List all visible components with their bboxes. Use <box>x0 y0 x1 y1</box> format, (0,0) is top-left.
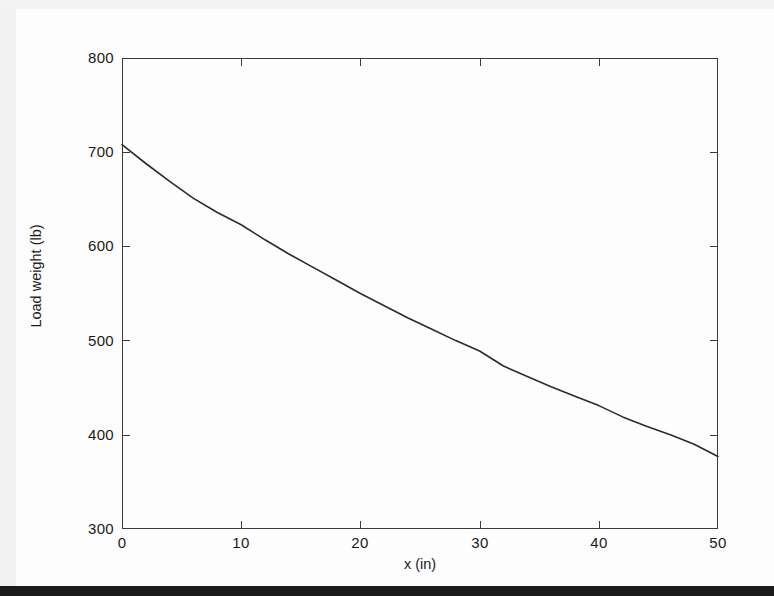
ytick-mark-700 <box>122 152 130 153</box>
xtick-label-50: 50 <box>688 534 748 551</box>
scan-edge-band <box>0 586 774 596</box>
ytick-mark-600 <box>122 246 130 247</box>
xtick-mark-top-20 <box>360 58 361 66</box>
xtick-mark-10 <box>241 521 242 529</box>
ytick-600: 600 <box>52 237 114 255</box>
xtick-mark-top-10 <box>241 58 242 66</box>
xtick-label-20: 20 <box>330 534 390 551</box>
ytick-label-800: 800 <box>54 49 114 66</box>
xtick-mark-40 <box>599 521 600 529</box>
ytick-mark-500 <box>122 340 130 341</box>
xtick-label-10: 10 <box>211 534 271 551</box>
ytick-label-600: 600 <box>54 237 114 254</box>
xtick-mark-30 <box>480 521 481 529</box>
xtick-label-40: 40 <box>569 534 629 551</box>
xtick-mark-top-40 <box>599 58 600 66</box>
ytick-mark-right-500 <box>710 340 718 341</box>
ytick-500: 500 <box>52 332 114 350</box>
x-axis-title: x (in) <box>122 556 718 572</box>
ytick-label-500: 500 <box>54 332 114 349</box>
ytick-mark-right-400 <box>710 435 718 436</box>
load-weight-curve <box>122 145 718 457</box>
data-series-layer <box>122 58 718 529</box>
ytick-700: 700 <box>52 143 114 161</box>
y-axis-title: Load weight (lb) <box>28 176 44 376</box>
figure: 800 700 600 500 400 300 <box>0 0 774 586</box>
chart-page: 800 700 600 500 400 300 <box>0 0 774 596</box>
xtick-mark-top-30 <box>480 58 481 66</box>
xtick-label-0: 0 <box>92 534 152 551</box>
ytick-mark-right-600 <box>710 246 718 247</box>
ytick-mark-right-700 <box>710 152 718 153</box>
xtick-mark-20 <box>360 521 361 529</box>
ytick-label-400: 400 <box>54 426 114 443</box>
ytick-400: 400 <box>52 426 114 444</box>
ytick-label-700: 700 <box>54 143 114 160</box>
ytick-800: 800 <box>52 49 114 67</box>
ytick-mark-400 <box>122 435 130 436</box>
xtick-label-30: 30 <box>450 534 510 551</box>
